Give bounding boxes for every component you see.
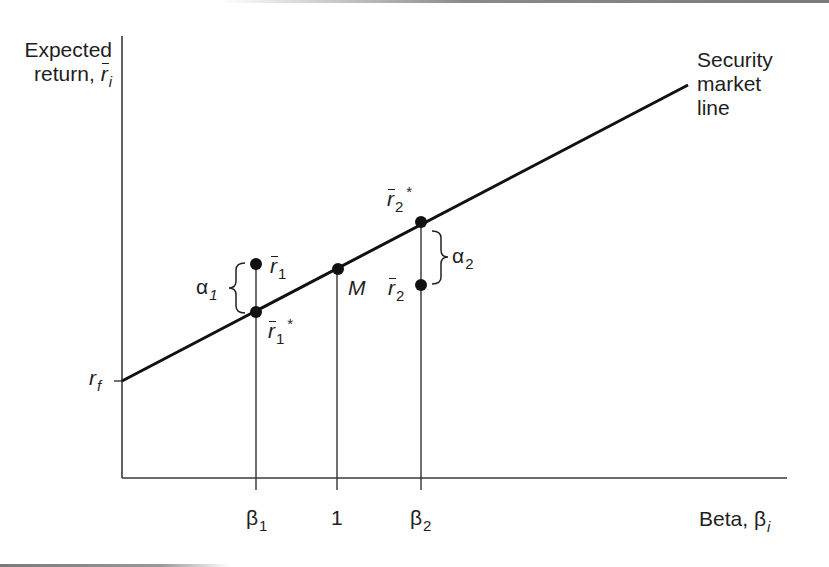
x-tick-one: 1 [331,507,343,528]
y-axis-label-line2: return, ri [6,62,112,88]
r-bar-symbol: r [101,62,108,86]
label-r1: r1 [270,255,286,276]
label-alpha2: α2 [452,245,473,266]
point-r2-star [415,216,427,228]
rf-label: rf [89,367,101,388]
label-alpha1: α1 [196,276,217,297]
label-M: M [348,277,366,298]
y-axis-label: Expected return, ri [6,38,112,88]
point-r1 [250,258,262,270]
label-r2: r2 [388,277,404,298]
alpha2-brace [432,231,448,284]
alpha1-brace [229,263,245,313]
x-tick-beta1: β1 [246,507,267,528]
point-market-M [332,263,344,275]
label-r2-star: r2* [387,188,412,209]
label-r1-star: r1* [268,320,293,341]
sml-label: Security market line [697,48,773,120]
x-tick-beta2: β2 [410,507,431,528]
point-r1-star [250,306,262,318]
y-axis-label-line1: Expected [6,38,112,62]
security-market-line [122,85,688,381]
point-r2 [415,279,427,291]
x-axis-label: Beta, βi [699,508,770,529]
